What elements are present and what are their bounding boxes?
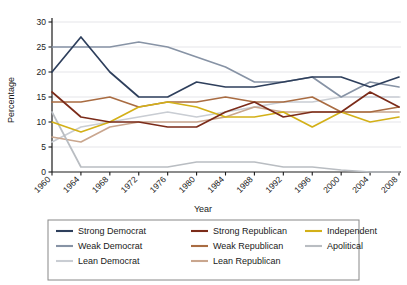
- legend-label-lean-republican: Lean Republican: [213, 256, 281, 266]
- legend-label-lean-democrat: Lean Democrat: [78, 256, 140, 266]
- y-tick-label: 30: [37, 17, 47, 27]
- chart-svg: 051015202530 196019641968197219761980198…: [0, 0, 407, 285]
- y-tick-label: 20: [37, 67, 47, 77]
- legend-label-strong-republican: Strong Republican: [213, 226, 287, 236]
- y-tick-label: 15: [37, 92, 47, 102]
- y-tick-label: 25: [37, 42, 47, 52]
- legend-label-independent: Independent: [327, 226, 378, 236]
- legend-label-weak-republican: Weak Republican: [213, 241, 283, 251]
- legend-label-apolitical: Apolitical: [327, 241, 363, 251]
- x-axis-title: Year: [194, 204, 212, 214]
- legend-label-strong-democrat: Strong Democrat: [78, 226, 147, 236]
- y-tick-label: 10: [37, 117, 47, 127]
- legend-label-weak-democrat: Weak Democrat: [78, 241, 143, 251]
- y-axis-title: Percentage: [6, 77, 16, 123]
- y-tick-label: 5: [41, 142, 46, 152]
- line-chart-figure: 051015202530 196019641968197219761980198…: [0, 0, 407, 285]
